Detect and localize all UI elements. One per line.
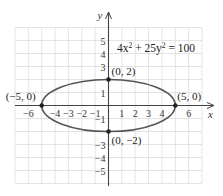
x-tick-label: 6 <box>186 108 191 119</box>
x-tick-label: −3 <box>63 108 74 119</box>
y-tick-label: −4 <box>95 153 106 164</box>
x-tick-label: 4 <box>159 108 164 119</box>
ellipse-chart: xy −6−4−3−2−1123465431−1−3−4−5 (−5, 0)(5… <box>0 0 223 196</box>
y-tick-label: 5 <box>101 36 106 47</box>
x-tick-label: 1 <box>119 108 124 119</box>
x-tick-label: −4 <box>50 108 61 119</box>
vertex-label: (−5, 0) <box>6 90 36 103</box>
x-tick-label: −2 <box>76 108 87 119</box>
vertex-point <box>39 103 44 108</box>
vertex-point <box>106 77 111 82</box>
x-tick-label: 3 <box>146 108 151 119</box>
vertex-label: (0, −2) <box>112 134 142 147</box>
vertex-point <box>173 103 178 108</box>
vertex-label: (0, 2) <box>112 65 136 78</box>
y-tick-label: −3 <box>95 140 106 151</box>
y-tick-label: −5 <box>95 166 106 177</box>
x-tick-label: 2 <box>133 108 138 119</box>
y-tick-label: 4 <box>101 49 106 60</box>
y-tick-label: 1 <box>101 88 106 99</box>
vertex-label: (5, 0) <box>177 90 201 103</box>
vertex-point <box>106 129 111 134</box>
y-axis-label: y <box>97 9 103 21</box>
x-tick-label: −6 <box>23 108 34 119</box>
x-axis-label: x <box>207 108 213 120</box>
y-tick-label: −1 <box>95 114 106 125</box>
equation-label: 4x2 + 25y2 = 100 <box>117 41 195 56</box>
y-tick-label: 3 <box>101 62 106 73</box>
